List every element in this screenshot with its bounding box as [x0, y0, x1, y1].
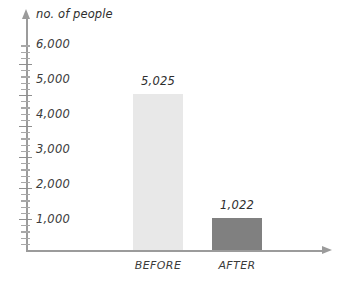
y-tick-minor [21, 138, 30, 139]
category-label-after: AFTER [218, 259, 255, 272]
bar-value-after: 1,022 [220, 198, 254, 212]
y-tick-minor [21, 176, 30, 177]
y-tick-minor [21, 52, 30, 53]
bar-value-before: 5,025 [141, 74, 175, 88]
y-tick-minor [21, 114, 30, 115]
y-tick-major [19, 126, 32, 127]
y-tick-label-5000: 5,000 [36, 72, 70, 86]
y-tick-minor [21, 107, 30, 108]
y-tick-major [19, 95, 32, 96]
bar-after [212, 218, 262, 250]
y-tick-minor [21, 151, 30, 152]
y-tick-minor [21, 101, 30, 102]
y-tick-minor [21, 194, 30, 195]
y-tick-minor [21, 76, 30, 77]
y-tick-minor [21, 120, 30, 121]
bar-chart: no. of people 6,000 5,000 4,000 3,000 2,… [0, 0, 345, 284]
y-tick-minor [21, 132, 30, 133]
x-axis-arrow-icon [322, 246, 332, 254]
y-tick-minor [21, 58, 30, 59]
x-axis-line [26, 250, 323, 252]
y-axis-title: no. of people [36, 7, 113, 21]
y-tick-label-4000: 4,000 [36, 107, 70, 121]
y-tick-minor [21, 70, 30, 71]
y-tick-minor [21, 244, 30, 245]
y-tick-major [19, 64, 32, 65]
y-tick-minor [21, 200, 30, 201]
y-tick-label-2000: 2,000 [36, 177, 70, 191]
y-tick-minor [21, 207, 30, 208]
y-tick-minor [21, 231, 30, 232]
bar-before [133, 94, 183, 250]
y-tick-minor [21, 213, 30, 214]
category-label-before: BEFORE [135, 259, 181, 272]
y-tick-minor [21, 163, 30, 164]
y-axis-line [26, 18, 28, 251]
y-tick-minor [21, 45, 30, 46]
y-tick-label-1000: 1,000 [36, 212, 70, 226]
y-tick-major [19, 219, 32, 220]
y-tick-minor [21, 169, 30, 170]
y-tick-minor [21, 225, 30, 226]
y-tick-minor [21, 89, 30, 90]
y-tick-minor [21, 145, 30, 146]
y-tick-minor [21, 238, 30, 239]
y-tick-label-6000: 6,000 [36, 37, 70, 51]
y-tick-minor [21, 182, 30, 183]
y-tick-major [19, 188, 32, 189]
y-tick-label-3000: 3,000 [36, 142, 70, 156]
y-tick-major [19, 157, 32, 158]
y-tick-minor [21, 83, 30, 84]
